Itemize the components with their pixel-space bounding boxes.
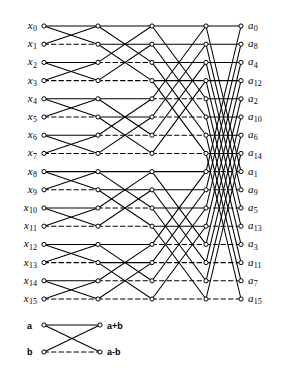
label-base: x [28,146,33,158]
flow-node-col1-row15 [96,297,100,301]
label-base: x [28,128,33,140]
flow-node-col3-row6 [204,133,208,137]
label-base: x [28,74,33,86]
label-subscript: 8 [254,42,258,51]
output-label-a4: a4 [248,56,258,69]
flow-node-col0-row14 [42,279,46,283]
label-base: x [28,19,33,31]
flow-node-col0-row0 [42,24,46,28]
input-label-x4: x4 [28,93,37,106]
label-base: x [24,274,29,286]
label-base: a [248,128,254,140]
flow-node-col1-row1 [96,42,100,46]
flow-node-col2-row12 [150,242,154,246]
label-base: x [28,110,33,122]
flow-node-col1-row13 [96,261,100,265]
flow-node-col0-row13 [42,261,46,265]
flow-node-col4-row3 [239,79,243,83]
flow-node-col4-row8 [239,170,243,174]
output-label-a13: a13 [248,220,262,233]
label-base: a [248,146,254,158]
output-label-a2: a2 [248,93,258,106]
label-base: a [248,74,254,86]
fft-butterfly-diagram: x0x1x2x3x4x5x6x7x8x9x10x11x12x13x14x15 a… [0,0,304,370]
flow-node-col3-row14 [204,279,208,283]
flow-node-col1-row9 [96,188,100,192]
flow-node-col2-row3 [150,79,154,83]
flow-node-col3-row1 [204,42,208,46]
flow-node-col3-row0 [204,24,208,28]
label-base: x [28,165,33,177]
label-subscript: 8 [33,170,37,179]
flow-node-col0-row15 [42,297,46,301]
label-base: a [248,237,254,249]
legend-node-output-sum [98,323,102,327]
flow-node-col1-row14 [96,279,100,283]
legend-output-difference-label: a-b [107,348,121,357]
label-base: x [28,55,33,67]
flow-node-col3-row9 [204,188,208,192]
input-label-x1: x1 [28,38,37,51]
flow-node-col4-row11 [239,224,243,228]
label-subscript: 12 [254,79,262,88]
label-base: x [24,292,29,304]
flow-node-col0-row10 [42,206,46,210]
flow-node-col4-row6 [239,133,243,137]
output-label-a11: a11 [248,257,262,270]
flow-node-col4-row2 [239,60,243,64]
flow-node-col2-row15 [150,297,154,301]
output-label-a0: a0 [248,20,258,33]
output-label-a9: a9 [248,184,258,197]
flow-node-col3-row10 [204,206,208,210]
output-label-a7: a7 [248,275,258,288]
label-base: a [248,292,254,304]
label-base: a [248,219,254,231]
flow-node-col0-row12 [42,242,46,246]
label-base: a [248,37,254,49]
legend-butterfly-graph [44,325,100,352]
flow-node-col0-row11 [42,224,46,228]
label-subscript: 11 [29,224,37,233]
flow-node-col4-row14 [239,279,243,283]
label-subscript: 10 [254,115,262,124]
label-subscript: 1 [254,170,258,179]
label-subscript: 5 [33,115,37,124]
flow-node-col2-row7 [150,151,154,155]
label-base: x [28,37,33,49]
flow-node-col2-row5 [150,115,154,119]
input-label-x10: x10 [24,202,37,215]
flow-node-col1-row10 [96,206,100,210]
flow-node-col2-row14 [150,279,154,283]
label-subscript: 12 [29,243,37,252]
flow-node-col2-row11 [150,224,154,228]
label-subscript: 9 [33,188,37,197]
edge-layer [44,26,241,299]
label-subscript: 5 [254,206,258,215]
legend-node-input-a [42,323,46,327]
flow-node-col2-row10 [150,206,154,210]
flow-node-col1-row6 [96,133,100,137]
legend-output-sum-label: a+b [107,322,123,331]
flow-node-col4-row10 [239,206,243,210]
fft-flow-graph-svg [0,0,304,370]
flow-node-col4-row9 [239,188,243,192]
input-label-x9: x9 [28,184,37,197]
label-base: a [248,92,254,104]
label-base: a [248,183,254,195]
label-base: x [24,256,29,268]
flow-node-col2-row13 [150,261,154,265]
input-label-x3: x3 [28,75,37,88]
flow-node-col1-row12 [96,242,100,246]
flow-node-col3-row13 [204,261,208,265]
flow-node-col0-row4 [42,97,46,101]
label-subscript: 3 [254,243,258,252]
flow-node-col4-row12 [239,242,243,246]
label-base: a [248,165,254,177]
flow-node-col4-row1 [239,42,243,46]
input-label-x14: x14 [24,275,37,288]
flow-node-col1-row4 [96,97,100,101]
label-base: x [28,92,33,104]
flow-node-col3-row7 [204,151,208,155]
flow-node-col0-row5 [42,115,46,119]
label-base: x [24,201,29,213]
